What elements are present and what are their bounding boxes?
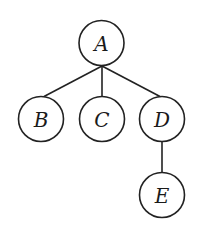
node-b-label: B [33, 108, 49, 132]
edge-a-b [44, 66, 102, 97]
node-a-label: A [92, 32, 108, 56]
node-c-label: C [94, 108, 109, 132]
node-e-label: E [154, 184, 170, 208]
node-e: E [140, 173, 185, 218]
node-d-label: D [153, 108, 170, 132]
node-c: C [80, 97, 125, 142]
node-b: B [19, 97, 64, 142]
node-d: D [140, 97, 185, 142]
edge-a-d [102, 66, 160, 97]
nodes: A B C D E [19, 21, 185, 218]
node-a: A [79, 21, 124, 66]
tree-diagram: A B C D E [0, 0, 199, 229]
